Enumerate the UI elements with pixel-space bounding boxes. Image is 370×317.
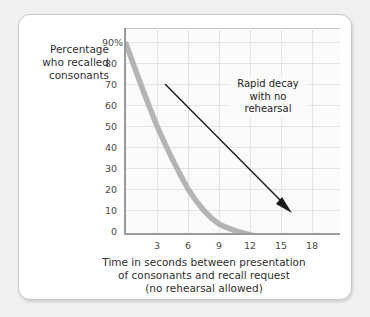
- y-tick-label-70: 70: [87, 80, 117, 90]
- x-axis-caption-line-2: of consonants and recall request: [79, 269, 329, 282]
- annotation-line-3: rehearsal: [232, 103, 304, 116]
- y-tick-label-20: 20: [87, 185, 117, 195]
- y-tick-label-80: 80: [87, 59, 117, 69]
- y-axis-line: [124, 28, 126, 235]
- y-tick-label-0: 0: [87, 227, 117, 237]
- annotation-line-1: Rapid decay: [232, 78, 304, 91]
- x-axis-caption-line-3: (no rehearsal allowed): [79, 282, 329, 295]
- x-tick-label-9: 9: [207, 241, 231, 251]
- y-tick-label-30: 30: [87, 164, 117, 174]
- x-tick-label-3: 3: [145, 241, 169, 251]
- annotation-label: Rapid decay with no rehearsal: [229, 77, 307, 117]
- annotation-line-2: with no: [232, 91, 304, 104]
- x-tick-label-18: 18: [300, 241, 324, 251]
- y-tick-label-40: 40: [87, 143, 117, 153]
- y-tick-label-60: 60: [87, 101, 117, 111]
- chart-stage: Percentage who recalled consonants 90% 8…: [19, 15, 353, 301]
- y-tick-label-10: 10: [87, 206, 117, 216]
- x-axis-caption: Time in seconds between presentation of …: [79, 256, 329, 296]
- y-tick-label-50: 50: [87, 122, 117, 132]
- x-tick-label-15: 15: [269, 241, 293, 251]
- figure-card: Percentage who recalled consonants 90% 8…: [18, 14, 352, 300]
- x-tick-label-6: 6: [176, 241, 200, 251]
- x-axis-line: [124, 233, 340, 235]
- y-tick-label-90: 90%: [87, 38, 123, 48]
- plot-area: Rapid decay with no rehearsal: [126, 28, 340, 233]
- x-tick-label-12: 12: [238, 241, 262, 251]
- x-axis-caption-line-1: Time in seconds between presentation: [79, 256, 329, 269]
- data-series-svg: [126, 28, 340, 233]
